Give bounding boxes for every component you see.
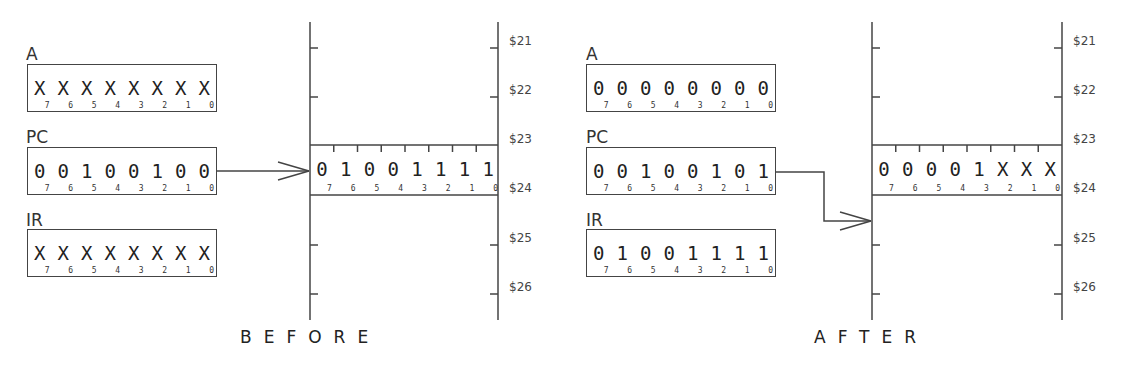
bit: 1 [967,158,991,180]
bit: X [193,77,217,99]
bit: 0 [52,160,76,182]
register-a-before: X X X X X X X X 7 6 5 4 3 2 1 0 [27,64,217,112]
bit: 0 [587,242,611,264]
register-a-label: A [26,46,38,63]
bit-index: 5 [634,101,658,110]
bit: 0 [658,77,682,99]
bit: X [99,77,123,99]
bit: 0 [658,242,682,264]
register-pc-label: PC [26,129,48,146]
bit: 1 [728,242,752,264]
register-pc-after: 0 0 1 0 0 1 0 1 7 6 5 4 3 2 1 0 [586,147,776,195]
bit-index: 5 [358,184,382,193]
bit: 1 [705,242,729,264]
bit: 0 [658,160,682,182]
bit: 0 [943,158,967,180]
bit: 0 [611,77,635,99]
bit-index: 3 [967,184,991,193]
address-label: $23 [1073,132,1096,146]
bit: 1 [634,160,658,182]
bit-index: 6 [52,184,76,193]
bit: 0 [587,77,611,99]
bit: 1 [146,160,170,182]
bit-index: 7 [28,266,52,275]
bit-index: 2 [146,101,170,110]
after-title: AFTER [814,327,928,347]
bit-index: 7 [28,101,52,110]
bit-index: 5 [634,184,658,193]
bit-index: 3 [122,184,146,193]
bit-index: 6 [896,184,920,193]
bit: X [146,242,170,264]
register-a-after: 0 0 0 0 0 0 0 0 7 6 5 4 3 2 1 0 [586,64,776,112]
bit-index: 2 [705,184,729,193]
bit-index: 3 [681,266,705,275]
register-ir-label: IR [586,212,603,229]
address-label: $24 [1073,181,1096,195]
bit-index: 6 [52,266,76,275]
bit-index: 6 [611,101,635,110]
bit-index: 3 [122,101,146,110]
bit: 0 [122,160,146,182]
bit-index: 3 [681,101,705,110]
register-a-label: A [586,46,598,63]
bit: X [1038,158,1062,180]
bit-index: 0 [193,101,217,110]
bit: 0 [193,160,217,182]
bit-index: 4 [943,184,967,193]
bit: X [991,158,1015,180]
register-ir-after: 0 1 0 0 1 1 1 1 7 6 5 4 3 2 1 0 [586,229,776,277]
bit: X [28,242,52,264]
bit-index: 4 [99,101,123,110]
bit: X [99,242,123,264]
bit-index: 1 [169,266,193,275]
bit-index: 6 [611,266,635,275]
bit-index: 0 [1038,184,1062,193]
bit-index: 0 [752,184,776,193]
bit: X [122,77,146,99]
bit: 1 [476,158,500,180]
bit-index: 2 [146,266,170,275]
register-pc-label: PC [586,129,608,146]
bit-index: 7 [587,184,611,193]
bit: 0 [634,242,658,264]
address-label: $22 [509,83,532,97]
bit: X [169,242,193,264]
bit: 1 [429,158,453,180]
bit: 0 [634,77,658,99]
bit-index: 1 [728,101,752,110]
bit-index: 1 [169,184,193,193]
bit-index: 0 [193,266,217,275]
arrow-after [776,172,871,221]
bit: 0 [920,158,944,180]
bit-index: 7 [587,266,611,275]
bit-index: 4 [381,184,405,193]
bit-index: 2 [991,184,1015,193]
bit: 1 [611,242,635,264]
bit-index: 5 [634,266,658,275]
bit: X [122,242,146,264]
bit: 0 [705,77,729,99]
bit-index: 5 [75,101,99,110]
bit: X [75,77,99,99]
bit: 0 [752,77,776,99]
bit: X [193,242,217,264]
bit-index: 1 [169,101,193,110]
bit-index: 0 [193,184,217,193]
bit: 1 [681,242,705,264]
address-label: $26 [1073,280,1096,294]
bit-index: 1 [728,184,752,193]
register-pc-before: 0 0 1 0 0 1 0 0 7 6 5 4 3 2 1 0 [27,147,217,195]
memory-cell-24-before: 0 1 0 0 1 1 1 1 7 6 5 4 3 2 1 0 [310,145,500,195]
bit-index: 7 [28,184,52,193]
bit: 0 [310,158,334,180]
bit: 0 [28,160,52,182]
bit: 1 [705,160,729,182]
before-title: BEFORE [240,327,380,347]
bit-index: 3 [681,184,705,193]
bit: X [1015,158,1039,180]
bit: 0 [728,77,752,99]
address-label: $23 [509,132,532,146]
register-ir-before: X X X X X X X X 7 6 5 4 3 2 1 0 [27,229,217,277]
bit-index: 6 [334,184,358,193]
